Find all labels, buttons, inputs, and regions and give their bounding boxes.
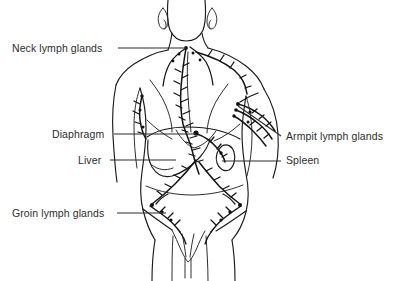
lymph-node <box>236 102 240 106</box>
head-jaw-outline <box>167 0 205 41</box>
armpit-left-outline <box>134 88 140 168</box>
lymph-node <box>228 210 231 213</box>
spleen-outline <box>216 145 235 171</box>
lymph-node <box>219 151 222 154</box>
neck-outline-right <box>202 33 208 48</box>
leader-armpit-lymph-glands <box>238 106 281 136</box>
axillary-vessel-2 <box>236 110 272 139</box>
label-neck-lymph-glands: Neck lymph glands <box>12 43 102 54</box>
inguinal-vessel-right <box>211 206 241 232</box>
liver-outline <box>148 139 210 177</box>
splenic-valve-marks <box>210 137 227 157</box>
lymph-node <box>142 126 145 129</box>
lymphatic-network <box>133 46 275 244</box>
label-diaphragm: Diaphragm <box>52 129 104 140</box>
leg-left-outline <box>152 240 155 281</box>
label-armpit-lymph-glands: Armpit lymph glands <box>286 131 383 142</box>
duct-valve-marks-left <box>174 69 195 156</box>
neck-outline <box>168 33 172 50</box>
lymph-node <box>247 121 250 124</box>
label-liver: Liver <box>78 155 101 166</box>
lymph-node <box>232 114 235 117</box>
lymph-node <box>238 203 242 207</box>
axillary-branch-up <box>240 93 258 102</box>
lymph-node <box>150 203 154 207</box>
lymph-node <box>139 109 142 112</box>
inguinal-node-cluster-right <box>211 194 242 232</box>
arm-right-outline <box>264 89 278 178</box>
lymph-node <box>192 52 195 55</box>
lymph-node <box>234 108 238 112</box>
leg-left-inner <box>172 236 173 281</box>
shoulder-left-outline <box>116 50 168 85</box>
groin-center-tip <box>185 258 191 278</box>
lymph-node <box>172 60 175 63</box>
axillary-vessel-3 <box>234 116 266 146</box>
inguinal-branch-right <box>211 194 235 225</box>
abdominal-valve-right <box>206 168 236 197</box>
torso-left-outline <box>140 88 155 240</box>
chest-right-contour <box>207 84 228 133</box>
lymph-node <box>178 53 181 56</box>
ear-left-outline <box>158 8 168 29</box>
groin-center-outline <box>172 230 205 262</box>
label-spleen: Spleen <box>286 155 319 166</box>
shoulder-right-outline <box>208 48 264 89</box>
liver-lobe-line <box>152 165 173 170</box>
lymph-node <box>199 59 202 62</box>
ear-right-outline <box>207 8 217 29</box>
body-outline <box>113 0 279 281</box>
chest-left-contour <box>150 80 172 132</box>
lymph-node <box>169 218 172 221</box>
rib-arc-left <box>147 120 172 139</box>
lymph-node <box>219 218 222 221</box>
lymph-node <box>140 94 143 97</box>
lymphatic-system-diagram: Neck lymph glands Diaphragm Liver Groin … <box>0 0 394 281</box>
leg-right-inner <box>206 236 208 281</box>
inguinal-vessel-left <box>150 206 180 232</box>
label-groin-lymph-glands: Groin lymph glands <box>12 208 104 219</box>
leg-right-outline <box>232 240 235 281</box>
